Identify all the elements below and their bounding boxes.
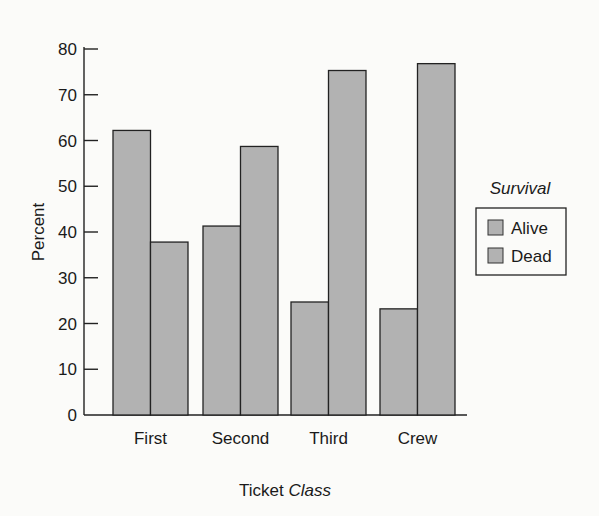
x-axis-title: Ticket Class [239, 481, 331, 500]
bar-third-alive [291, 302, 329, 415]
bar-crew-alive [380, 309, 418, 415]
y-axis-title: Percent [29, 202, 48, 261]
legend-label-alive: Alive [511, 219, 548, 238]
y-tick-label: 20 [58, 315, 77, 334]
x-category-label: Third [309, 429, 348, 448]
bar-second-alive [203, 226, 241, 415]
x-category-label: Second [212, 429, 270, 448]
bar-chart: 01020304050607080FirstSecondThirdCrew Pe… [0, 0, 599, 516]
y-tick-label: 40 [58, 223, 77, 242]
bar-second-dead [241, 146, 279, 415]
x-category-label: Crew [398, 429, 438, 448]
legend: Survival Alive Dead [476, 179, 566, 275]
y-tick-label: 80 [58, 40, 77, 59]
y-tick-label: 70 [58, 86, 77, 105]
bar-first-alive [113, 130, 151, 415]
legend-swatch-dead [488, 248, 503, 263]
bar-first-dead [151, 242, 189, 415]
plot-area: 01020304050607080FirstSecondThirdCrew [58, 40, 467, 448]
legend-title: Survival [490, 179, 552, 198]
bar-third-dead [329, 71, 367, 415]
y-tick-label: 0 [68, 406, 77, 425]
legend-swatch-alive [488, 220, 503, 235]
legend-label-dead: Dead [511, 247, 552, 266]
y-tick-label: 50 [58, 177, 77, 196]
bar-crew-dead [418, 64, 456, 415]
y-tick-label: 30 [58, 269, 77, 288]
y-tick-label: 60 [58, 132, 77, 151]
x-category-label: First [134, 429, 167, 448]
y-tick-label: 10 [58, 360, 77, 379]
